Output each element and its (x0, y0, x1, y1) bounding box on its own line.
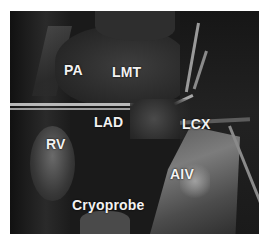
lad-vessel-area (130, 99, 190, 139)
label-rv: RV (46, 136, 66, 152)
label-lcx: LCX (182, 116, 211, 132)
lower-tissue-bottom (80, 211, 130, 234)
label-lad: LAD (94, 114, 123, 130)
top-tissue (95, 11, 175, 41)
suture-tape-1 (10, 103, 145, 106)
label-lmt: LMT (112, 64, 141, 80)
suture-tape-2 (10, 108, 135, 110)
label-cryoprobe: Cryoprobe (72, 197, 145, 213)
label-pa: PA (64, 62, 83, 78)
surgical-photo: PA LMT LCX LAD RV AIV Cryoprobe (10, 11, 259, 234)
label-aiv: AIV (170, 166, 194, 182)
